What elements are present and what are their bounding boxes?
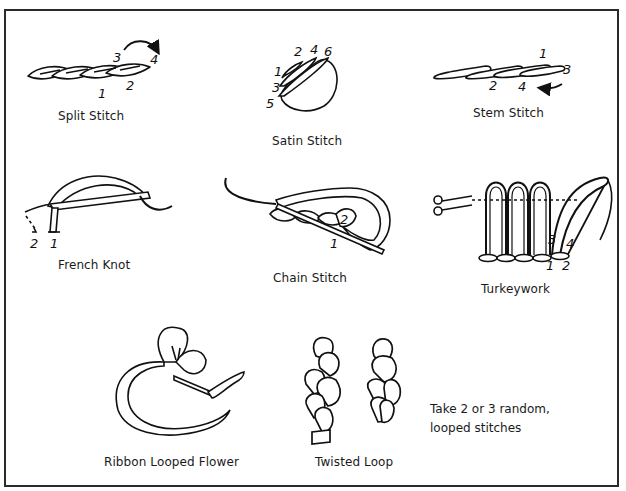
stem-number-2: 2 — [489, 78, 497, 93]
chain-number-2: 2 — [340, 212, 348, 227]
stem-stitch-label: Stem Stitch — [473, 106, 544, 120]
french-knot-label: French Knot — [58, 258, 130, 272]
turkey-number-3: 3 — [548, 232, 556, 247]
stem-stitch-illustration — [434, 65, 565, 88]
split-number-3: 3 — [113, 50, 121, 65]
turkey-number-2: 2 — [562, 258, 570, 273]
satin-number-3: 3 — [272, 80, 280, 95]
twisted-loop-illustration — [305, 338, 400, 444]
stem-number-3: 3 — [563, 62, 571, 77]
french-knot-illustration — [25, 176, 172, 232]
satin-number-6: 6 — [324, 44, 332, 59]
twisted-loop-note: Take 2 or 3 random, looped stitches — [430, 400, 550, 438]
french-number-1: 1 — [50, 236, 58, 251]
satin-stitch-illustration — [279, 58, 337, 111]
chain-stitch-label: Chain Stitch — [273, 271, 347, 285]
chain-stitch-illustration — [225, 178, 390, 254]
note-line-1: Take 2 or 3 random, — [430, 400, 550, 419]
satin-number-4: 4 — [310, 42, 318, 57]
ribbon-looped-flower-illustration — [116, 327, 244, 435]
satin-number-5: 5 — [266, 96, 274, 111]
stem-number-1: 1 — [539, 46, 547, 61]
split-number-4: 4 — [150, 52, 158, 67]
turkey-number-1: 1 — [546, 258, 554, 273]
satin-stitch-label: Satin Stitch — [272, 134, 342, 148]
turkey-number-4: 4 — [566, 236, 574, 251]
split-number-1: 1 — [98, 86, 106, 101]
twisted-loop-label: Twisted Loop — [315, 455, 393, 469]
satin-number-2: 2 — [294, 44, 302, 59]
stem-number-4: 4 — [518, 79, 526, 94]
turkeywork-illustration — [434, 178, 612, 262]
split-stitch-label: Split Stitch — [58, 109, 124, 123]
note-line-2: looped stitches — [430, 419, 550, 438]
ribbon-looped-flower-label: Ribbon Looped Flower — [104, 455, 239, 469]
satin-number-1: 1 — [274, 64, 282, 79]
french-number-2: 2 — [30, 236, 38, 251]
split-stitch-illustration — [28, 41, 158, 79]
turkeywork-label: Turkeywork — [481, 282, 550, 296]
split-number-2: 2 — [126, 78, 134, 93]
chain-number-1: 1 — [330, 236, 338, 251]
